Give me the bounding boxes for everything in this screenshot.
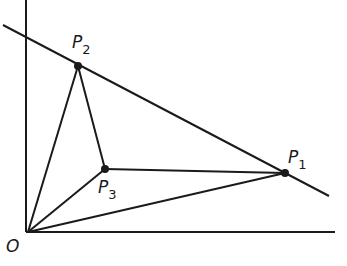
segment-p2-p3 [78, 66, 105, 169]
segment-o-p1 [28, 173, 285, 232]
point-p1 [281, 169, 289, 177]
point-p3 [101, 165, 109, 173]
point-p2 [74, 62, 82, 70]
origin-label: O [6, 236, 19, 256]
label-p2: P2 [72, 32, 91, 57]
labels: O P1P2P3 [6, 32, 307, 256]
label-p3: P3 [98, 177, 117, 202]
diagram-canvas: O P1P2P3 [0, 0, 347, 266]
label-p1: P1 [288, 147, 307, 172]
segment-p3-p1 [105, 169, 285, 173]
segments [28, 66, 285, 232]
segment-o-p2 [28, 66, 78, 232]
